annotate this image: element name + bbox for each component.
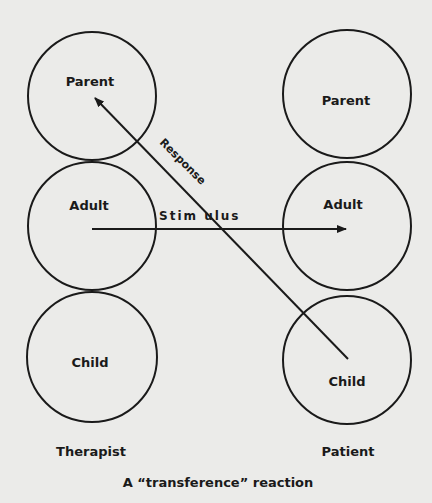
patient-parent-label: Parent [322,93,371,108]
patient-adult-label: Adult [323,197,362,212]
diagram-caption: A “transference” reaction [123,475,314,490]
patient-child-label: Child [328,374,365,389]
stimulus-label: Stim ulus [159,209,241,223]
therapist-parent-label: Parent [66,74,115,89]
therapist-column-label: Therapist [56,444,126,459]
therapist-adult-label: Adult [69,198,108,213]
therapist-adult-circle [28,162,156,290]
patient-child-circle [283,296,411,424]
patient-column-label: Patient [322,444,375,459]
patient-adult-circle [283,162,411,290]
transference-diagram: Parent Adult Child Parent Adult Child St… [0,0,432,503]
response-label: Response [157,136,208,187]
therapist-child-label: Child [71,355,108,370]
